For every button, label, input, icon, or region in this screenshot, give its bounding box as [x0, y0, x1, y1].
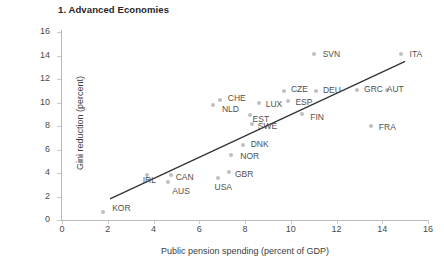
y-tick	[57, 79, 61, 80]
point-label-gbr: GBR	[235, 169, 253, 179]
data-point-lux	[257, 101, 261, 105]
x-tick-label: 16	[413, 224, 443, 234]
data-point-nld	[211, 103, 215, 107]
point-label-svn: SVN	[323, 49, 340, 59]
y-tick	[57, 150, 61, 151]
point-label-kor: KOR	[112, 203, 130, 213]
point-label-usa: USA	[215, 182, 232, 192]
point-label-can: CAN	[176, 172, 194, 182]
x-tick-label: 4	[139, 224, 169, 234]
x-tick-label: 2	[93, 224, 123, 234]
point-label-fra: FRA	[379, 122, 396, 132]
y-tick	[57, 126, 61, 127]
y-tick-label: 14	[14, 50, 50, 60]
y-tick-label: 12	[14, 73, 50, 83]
x-tick-label: 0	[47, 224, 77, 234]
y-tick	[57, 103, 61, 104]
data-point-che	[218, 98, 222, 102]
point-label-aut: AUT	[387, 84, 404, 94]
point-label-nor: NOR	[240, 151, 259, 161]
data-point-fra	[369, 124, 373, 128]
data-point-cze	[282, 89, 286, 93]
data-point-swe	[250, 122, 254, 126]
point-label-grc: GRC	[364, 84, 383, 94]
y-tick-label: 2	[14, 191, 50, 201]
y-tick	[57, 32, 61, 33]
data-point-dnk	[241, 143, 245, 147]
point-label-nld: NLD	[222, 104, 239, 114]
y-tick-label: 4	[14, 167, 50, 177]
y-tick	[57, 220, 61, 221]
x-tick-label: 14	[367, 224, 397, 234]
data-point-gbr	[227, 170, 231, 174]
point-label-aus: AUS	[172, 186, 189, 196]
data-point-ita	[399, 52, 403, 56]
data-point-deu	[314, 89, 318, 93]
chart-container: 1. Advanced Economies Gini reduction (pe…	[0, 0, 444, 272]
point-label-ita: ITA	[410, 49, 423, 59]
y-tick	[57, 56, 61, 57]
data-point-kor	[101, 210, 105, 214]
point-label-che: CHE	[228, 93, 246, 103]
point-label-esp: ESP	[295, 97, 312, 107]
y-tick	[57, 197, 61, 198]
y-tick-label: 16	[14, 26, 50, 36]
y-tick-label: 8	[14, 120, 50, 130]
data-point-usa	[216, 176, 220, 180]
y-tick-label: 6	[14, 144, 50, 154]
point-label-lux: LUX	[266, 99, 283, 109]
x-axis-title: Public pension spending (percent of GDP)	[62, 246, 428, 256]
point-label-fin: FIN	[310, 112, 324, 122]
point-label-irl: IRL	[143, 175, 156, 185]
x-tick-label: 6	[184, 224, 214, 234]
point-label-swe: SWE	[258, 121, 277, 131]
x-tick-label: 10	[276, 224, 306, 234]
point-label-cze: CZE	[291, 84, 308, 94]
data-point-grc	[355, 88, 359, 92]
y-tick-label: 0	[14, 214, 50, 224]
y-tick	[57, 173, 61, 174]
y-tick-label: 10	[14, 97, 50, 107]
point-label-dnk: DNK	[251, 139, 269, 149]
x-tick-label: 8	[230, 224, 260, 234]
x-tick-label: 12	[322, 224, 352, 234]
point-label-deu: DEU	[323, 85, 341, 95]
data-point-svn	[312, 52, 316, 56]
